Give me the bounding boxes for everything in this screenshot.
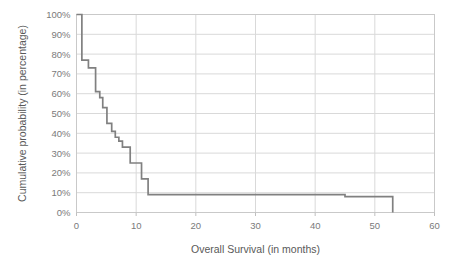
chart-canvas: 0%10%20%30%40%50%60%70%80%90%100% 010203… bbox=[0, 0, 462, 274]
x-tick-label: 20 bbox=[191, 220, 202, 231]
y-tick-label: 70% bbox=[51, 68, 71, 79]
x-tick-label: 30 bbox=[250, 220, 261, 231]
x-tick-label: 50 bbox=[370, 220, 381, 231]
y-tick-label: 90% bbox=[51, 29, 71, 40]
y-tick-label: 30% bbox=[51, 148, 71, 159]
y-tick-label: 100% bbox=[46, 9, 71, 20]
y-tick-label: 60% bbox=[51, 88, 71, 99]
y-tick-label: 10% bbox=[51, 187, 71, 198]
y-tick-label: 80% bbox=[51, 49, 71, 60]
y-tick-label: 40% bbox=[51, 128, 71, 139]
x-tick-label: 60 bbox=[429, 220, 440, 231]
y-tick-label: 0% bbox=[57, 207, 71, 218]
x-tick-label: 40 bbox=[310, 220, 321, 231]
x-tick-label: 0 bbox=[74, 220, 79, 231]
y-tick-label: 50% bbox=[51, 108, 71, 119]
x-axis-title: Overall Survival (in months) bbox=[191, 243, 320, 255]
x-tick-label: 10 bbox=[131, 220, 142, 231]
y-tick-label: 20% bbox=[51, 167, 71, 178]
y-axis-title: Cumulative probability (in percentage) bbox=[16, 25, 28, 202]
survival-chart: 0%10%20%30%40%50%60%70%80%90%100% 010203… bbox=[0, 0, 462, 274]
